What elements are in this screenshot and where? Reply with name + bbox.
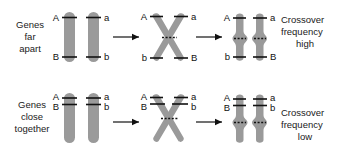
row2-result-line3: low <box>298 131 312 142</box>
row1-label-line3: apart <box>19 43 41 54</box>
row1-stage1-homologous-pair: A B a b <box>53 12 110 63</box>
row1-label-line1: Genes <box>16 19 44 30</box>
allele-label-b: b <box>104 51 109 62</box>
chromosome-right <box>252 94 267 142</box>
row1-result-line1: Crossover <box>281 14 324 25</box>
allele-label-B: B <box>53 51 59 62</box>
row1-arrow-2 <box>196 34 222 41</box>
row2-label-line2: close <box>21 111 43 122</box>
row2-label-line3: together <box>15 123 50 134</box>
row2-stage3-parental-pair: A B a b <box>224 92 276 143</box>
chromosome-right <box>88 93 99 143</box>
chromosome-left <box>233 13 248 60</box>
row2-stage1-homologous-pair: A B a b <box>53 91 110 143</box>
allele-label-b: b <box>270 102 275 113</box>
chromosome-right <box>88 12 99 62</box>
row-label-genes-far-apart: Genes far apart <box>16 19 44 54</box>
row2-arrow-1 <box>113 119 139 126</box>
allele-label-B: B <box>141 101 147 112</box>
result-label-crossover-frequency-low: Crossover frequency low <box>281 107 324 142</box>
allele-label-b: b <box>191 101 196 112</box>
row2-stage2-crossover-x: A B a b <box>141 91 197 142</box>
row1-stage2-crossover-x: A a b B <box>141 11 198 64</box>
row2-result-line2: frequency <box>281 119 323 130</box>
row1-result-line3: high <box>296 38 314 49</box>
allele-label-A: A <box>53 12 60 23</box>
chromosome-left <box>233 94 248 142</box>
row1-stage3-recombinant-pair: A a b B <box>224 12 277 62</box>
chromosome-right <box>252 13 267 60</box>
allele-label-b: b <box>225 51 230 62</box>
allele-label-B: B <box>53 101 59 112</box>
chromosome-left <box>64 12 75 62</box>
crossover-diagram: Genes far apart A B a b A a b B <box>0 0 341 161</box>
row-label-genes-close-together: Genes close together <box>15 99 50 134</box>
allele-label-A: A <box>141 11 148 22</box>
chromosome-left <box>64 93 75 143</box>
result-label-crossover-frequency-high: Crossover frequency high <box>281 14 324 49</box>
allele-label-b: b <box>104 101 109 112</box>
row1-arrow-1 <box>113 34 139 41</box>
allele-label-B: B <box>224 102 230 113</box>
figure-canvas: Genes far apart A B a b A a b B <box>0 0 341 161</box>
row2-label-line1: Genes <box>18 99 46 110</box>
allele-label-a: a <box>270 12 276 23</box>
row1-label-line2: far <box>24 31 35 42</box>
allele-label-a: a <box>191 11 197 22</box>
row2-arrow-2 <box>196 119 222 126</box>
allele-label-B: B <box>270 51 276 62</box>
row2-result-line1: Crossover <box>281 107 324 118</box>
allele-label-B: B <box>191 52 197 63</box>
allele-label-A: A <box>224 12 231 23</box>
row1-result-line2: frequency <box>281 26 323 37</box>
allele-label-b: b <box>142 52 147 63</box>
allele-label-a: a <box>104 12 110 23</box>
